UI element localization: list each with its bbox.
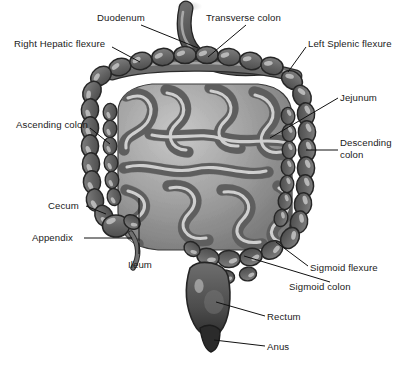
label-sigmoid-colon: Sigmoid colon: [289, 281, 351, 293]
label-right-hepatic-flexure: Right Hepatic flexure: [14, 38, 105, 50]
label-sigmoid-flexure: Sigmoid flexure: [310, 262, 378, 274]
label-ascending-colon: Ascending colon: [16, 119, 88, 131]
label-ileum: Ileum: [128, 259, 152, 271]
label-rectum: Rectum: [267, 311, 301, 323]
ascending-colon: [81, 98, 105, 212]
leader-anus: [214, 340, 265, 346]
diagram-canvas: Duodenum Transverse colon Right Hepatic …: [0, 0, 405, 365]
anus: [200, 325, 220, 352]
label-duodenum: Duodenum: [97, 12, 145, 24]
label-cecum: Cecum: [48, 200, 79, 212]
leader-left-splenic-flexure: [288, 47, 306, 72]
label-transverse-colon: Transverse colon: [206, 12, 281, 24]
label-jejunum: Jejunum: [340, 92, 377, 104]
large-intestine-illustration: [0, 0, 405, 365]
label-appendix: Appendix: [32, 232, 73, 244]
label-left-splenic-flexure: Left Splenic flexure: [308, 38, 392, 50]
label-anus: Anus: [267, 341, 289, 353]
small-intestine-group: [118, 84, 292, 250]
hepatic-flexure: [79, 62, 115, 106]
label-descending-colon: Descending colon: [340, 137, 392, 160]
